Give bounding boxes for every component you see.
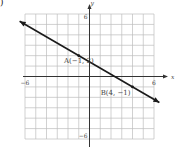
x-axis-arrow-icon bbox=[163, 75, 168, 79]
axes: xy bbox=[23, 0, 175, 147]
x-axis-label: x bbox=[171, 73, 175, 80]
x-tick-label: −6 bbox=[21, 79, 30, 86]
point-B bbox=[131, 86, 134, 89]
point-label-B: B(4, −1) bbox=[101, 89, 131, 97]
y-tick-label: −6 bbox=[79, 132, 88, 139]
point-label-A: A(−1, 2) bbox=[63, 57, 94, 65]
x-tick-label: 6 bbox=[152, 79, 156, 86]
points: A(−1, 2)B(4, −1) bbox=[63, 54, 134, 97]
coordinate-plane: xy −666−6 A(−1, 2)B(4, −1) bbox=[0, 0, 181, 156]
y-axis-label: y bbox=[90, 0, 95, 7]
y-tick-label: 6 bbox=[84, 13, 88, 20]
